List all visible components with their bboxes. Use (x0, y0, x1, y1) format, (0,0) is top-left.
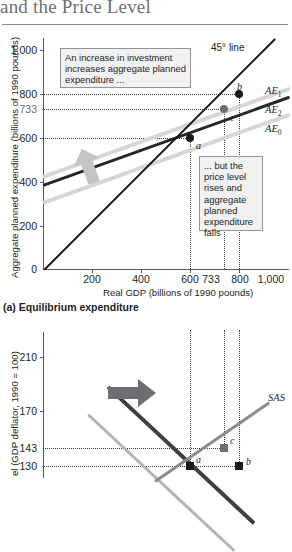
sas-curve (154, 401, 270, 483)
running-head: and the Price Level (0, 0, 292, 22)
panel-b-guide-143 (43, 448, 224, 449)
panel-a-y-axis (43, 38, 44, 270)
ae0-label-text: AE (265, 123, 278, 134)
panel-b-y-label-210: 210 (0, 352, 37, 362)
panel-a-y-label-600: 600 (0, 133, 37, 143)
panel-b-y-label-143: 143 (0, 443, 37, 453)
panel-a-point-b-label: b (237, 81, 242, 92)
header-rule (2, 24, 288, 25)
panel-a-y-label-0: 0 (0, 264, 37, 274)
ad-shift-arrow (108, 378, 156, 408)
panel-a-point-c-label: c (230, 112, 234, 123)
panel-a-x-label-200: 200 (74, 274, 110, 284)
ae2-label: AE2 (265, 104, 282, 118)
forty-five-line-label: 45° line (211, 42, 244, 53)
guide-733 (43, 109, 225, 110)
panel-a-x-axis-title: Real GDP (billions of 1990 pounds) (103, 287, 253, 298)
ae1-label-text: AE (265, 85, 278, 96)
ae0-label-sub: 0 (278, 128, 282, 137)
panel-b-point-a (186, 462, 194, 470)
guide-800 (43, 94, 239, 95)
panel-a-x-label-1000: 1,000 (252, 274, 290, 284)
panel-a-y-tick-200 (40, 226, 44, 227)
panel-b-point-c (220, 444, 228, 452)
panel-b-y-label-170: 170 (0, 406, 37, 416)
panel-b-y-axis (43, 332, 44, 478)
panel-a-point-a-label: a (196, 140, 201, 151)
panel-a-x-axis (43, 269, 289, 270)
panel-a-y-axis-title: Aggregate planned expenditure (billions … (9, 37, 20, 278)
panel-b-point-c-label: c (230, 435, 234, 446)
panel-a-point-a (186, 134, 194, 142)
panel-a-y-label-1000: 1,000 (0, 45, 37, 55)
ae1-label-sub: 1 (278, 90, 282, 99)
panel-a-chart: Aggregate planned expenditure (billions … (0, 30, 292, 298)
panel-b-y-tick-210 (40, 357, 44, 358)
panel-b-guide-x-800 (239, 330, 240, 466)
annotation-price-level-rises: ... but the price level rises and aggreg… (199, 156, 263, 231)
panel-a-y-label-200: 200 (0, 221, 37, 231)
ae-shift-arrow (74, 148, 102, 184)
ae0-label: AE0 (265, 123, 282, 137)
annotation-investment-increase: An increase in investment increases aggr… (60, 48, 191, 88)
panel-a-y-tick-1000 (40, 50, 44, 51)
panel-a-caption: (a) Equilibrium expenditure (3, 301, 139, 313)
panel-a-point-c (220, 105, 228, 113)
panel-b-guide-x-600 (190, 330, 191, 466)
panel-b-point-b (235, 462, 243, 470)
guide-x-600 (190, 138, 191, 269)
panel-a-y-label-800: 800 (0, 89, 37, 99)
panel-b-point-b-label: b (246, 456, 251, 467)
panel-b-y-label-130: 130 (0, 461, 37, 471)
panel-a-y-label-400: 400 (0, 177, 37, 187)
panel-a-y-label-733: 733 (0, 104, 37, 114)
panel-b-chart: el (GDP deflator, 1990 = 100) 210 170 14… (0, 330, 292, 478)
ae2-label-sub: 2 (278, 109, 282, 118)
panel-b-y-tick-170 (40, 411, 44, 412)
panel-b-point-a-label: a (196, 454, 201, 465)
ae1-label: AE1 (265, 85, 282, 99)
ae2-label-text: AE (265, 104, 278, 115)
sas-label: SAS (268, 392, 285, 403)
panel-a-x-label-400: 400 (123, 274, 159, 284)
